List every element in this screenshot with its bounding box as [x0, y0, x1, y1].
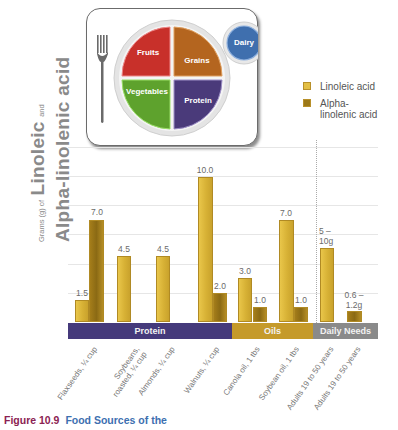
bar-soybeanoil-alpha [294, 307, 308, 322]
value-label-daily-alpha: 0.6 – 1.2g [334, 290, 374, 310]
value-label: 2.0 [200, 281, 240, 291]
group-band-oils: Oils [232, 323, 313, 339]
bar-flaxseeds-alpha [89, 220, 104, 322]
bar-soybeans-linoleic [117, 256, 131, 322]
figure-title: Food Sources of the [65, 414, 167, 426]
bar-soybeanoil-linoleic [279, 220, 294, 322]
bar-daily-alpha [347, 311, 362, 322]
legend-label: Linoleic acid [320, 81, 375, 92]
value-label: 4.5 [143, 244, 183, 254]
legend-swatch-alpha [303, 99, 311, 107]
figure-number: Figure 10.9 [4, 414, 59, 426]
gridline [68, 205, 378, 206]
plate-fruits-label: Fruits [126, 48, 170, 57]
group-band-protein: Protein [68, 323, 232, 339]
figure-caption: Figure 10.9 Food Sources of the [4, 414, 167, 426]
bar-walnuts-alpha [213, 293, 227, 322]
value-label: 7.0 [77, 207, 117, 217]
fork-icon [97, 35, 108, 123]
group-band-daily-needs: Daily Needs [313, 323, 378, 339]
x-label-walnuts: Walnuts, ¼ cup [183, 345, 222, 395]
y-axis-title: Grams (g) of Linoleic and Alpha-linoleni… [28, 57, 74, 242]
value-label: 1.5 [62, 288, 102, 298]
plate-vegetables-label: Vegetables [121, 87, 173, 96]
bar-walnuts-linoleic [198, 177, 213, 322]
value-label-daily-linoleic: 5 – 10g [305, 226, 345, 246]
myplate-graphic [86, 8, 258, 146]
legend-item-alpha: Alpha-linolenic acid [303, 98, 383, 120]
legend-label: Alpha-linolenic acid [320, 98, 383, 120]
x-label-canola: Canola oil, 1 tbs [221, 345, 261, 397]
value-label: 7.0 [266, 208, 306, 218]
value-label: 4.5 [104, 244, 144, 254]
value-label: 10.0 [185, 165, 225, 175]
chart-legend: Linoleic acid Alpha-linolenic acid [303, 81, 383, 120]
x-label-adults-alpha: Adults 19 to 50 years [312, 345, 362, 412]
x-label-flaxseeds: Flaxseeds, ¼ cup [56, 345, 99, 402]
bar-almonds-linoleic [156, 256, 170, 322]
bar-daily-linoleic [320, 248, 334, 322]
value-label: 3.0 [225, 266, 265, 276]
plate-grains-label: Grains [175, 56, 219, 65]
plate-dairy-label: Dairy [228, 38, 260, 47]
gridline [68, 176, 378, 177]
legend-item-linoleic: Linoleic acid [303, 81, 383, 92]
legend-swatch-linoleic [303, 82, 311, 90]
bar-canola-alpha [253, 307, 267, 322]
bar-flaxseeds-linoleic [75, 300, 89, 322]
plate-protein-label: Protein [175, 96, 221, 105]
value-label: 1.0 [240, 295, 280, 305]
gridline [68, 147, 378, 148]
value-label: 1.0 [281, 295, 321, 305]
